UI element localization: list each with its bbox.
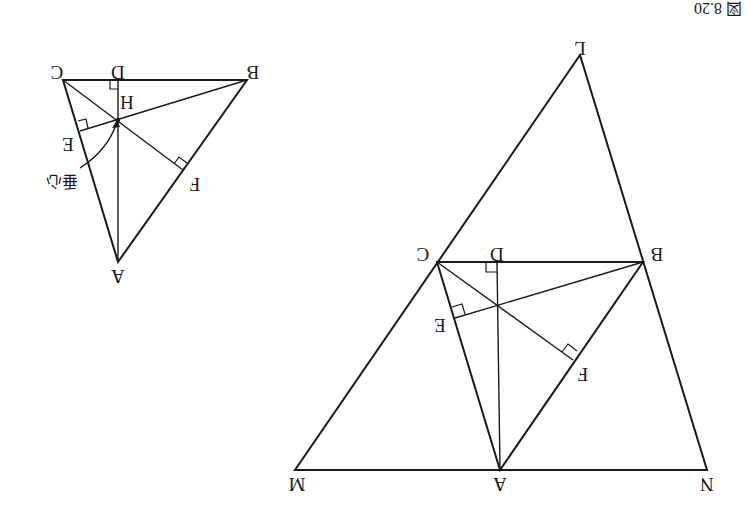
- label-c: C: [417, 244, 430, 265]
- geometry-figure: L M N A B C D E F A B C D: [0, 0, 751, 526]
- label-d: D: [490, 244, 504, 265]
- right-angle-mark-f: [562, 344, 577, 352]
- label-m: M: [288, 474, 305, 495]
- label-b: B: [651, 244, 664, 265]
- small-labels: A B C D E F H 垂心: [46, 62, 259, 287]
- small-label-h: H: [120, 92, 134, 113]
- large-figure: L M N A B C D E F: [288, 38, 713, 495]
- label-e: E: [434, 315, 446, 336]
- small-label-c: C: [51, 62, 64, 83]
- small-altitude-be: [80, 80, 247, 131]
- label-l: L: [574, 38, 586, 59]
- label-f: F: [578, 364, 589, 385]
- small-label-a: A: [111, 266, 125, 287]
- small-label-d: D: [111, 62, 125, 83]
- small-triangle-abc: [63, 80, 247, 262]
- small-label-b: B: [247, 62, 260, 83]
- small-right-angle-mark-f: [174, 157, 187, 164]
- label-a: A: [493, 474, 507, 495]
- label-n: N: [700, 474, 714, 495]
- small-figure: A B C D E F H 垂心: [46, 62, 259, 287]
- small-label-f: F: [190, 174, 201, 195]
- caption-text: 図 8.20: [694, 0, 742, 17]
- altitude-ad: [497, 262, 500, 470]
- right-angle-mark-e: [452, 304, 465, 314]
- orthocenter-annotation: 垂心: [46, 173, 78, 190]
- figure-caption: 図 8.20: [694, 0, 742, 17]
- small-right-angle-mark-e: [78, 119, 88, 128]
- small-label-e: E: [62, 134, 74, 155]
- altitude-be: [455, 262, 643, 318]
- large-labels: L M N A B C D E F: [288, 38, 713, 495]
- altitude-cf: [437, 262, 573, 360]
